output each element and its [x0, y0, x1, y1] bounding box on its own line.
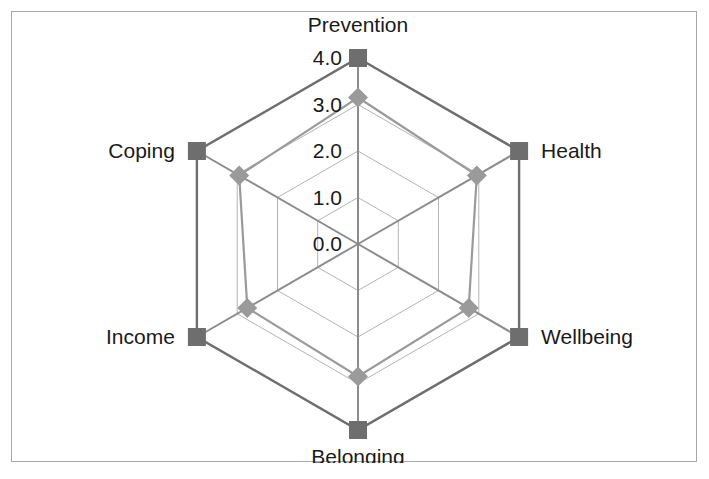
- category-label-belonging: Belonging: [311, 445, 404, 463]
- axis-tick-1: 1.0: [313, 186, 342, 209]
- data-point-marker: [229, 165, 249, 185]
- category-label-income: Income: [106, 325, 175, 348]
- axis-tick-labels: 4.0 3.0 2.0 1.0 0.0: [313, 46, 342, 255]
- category-label-prevention: Prevention: [308, 13, 408, 36]
- data-point-marker: [188, 142, 206, 160]
- axis-tick-3: 3.0: [313, 93, 342, 116]
- data-point-marker: [188, 328, 206, 346]
- data-point-marker: [467, 165, 487, 185]
- category-label-wellbeing: Wellbeing: [541, 325, 633, 348]
- data-point-marker: [348, 88, 368, 108]
- category-label-coping: Coping: [108, 139, 175, 162]
- axis-tick-2: 2.0: [313, 139, 342, 162]
- axis-tick-0: 0.0: [313, 232, 342, 255]
- axis-tick-4: 4.0: [313, 46, 342, 69]
- data-point-marker: [348, 367, 368, 387]
- category-label-health: Health: [541, 139, 602, 162]
- data-point-marker: [349, 49, 367, 67]
- data-point-marker: [459, 298, 479, 318]
- data-point-marker: [510, 142, 528, 160]
- data-point-marker: [349, 421, 367, 439]
- data-point-marker: [510, 328, 528, 346]
- chart-frame: 4.0 3.0 2.0 1.0 0.0 Prevention Health We…: [11, 11, 697, 462]
- data-point-marker: [237, 298, 257, 318]
- radar-chart: 4.0 3.0 2.0 1.0 0.0 Prevention Health We…: [12, 12, 698, 463]
